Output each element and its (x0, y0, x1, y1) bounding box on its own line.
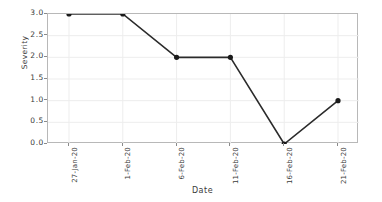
x-tick-mark (283, 143, 284, 146)
x-tick-label: 11-Feb-20 (232, 147, 240, 184)
y-tick-label: 2.5 (20, 31, 44, 39)
severity-line-series (48, 14, 359, 144)
x-axis-title: Date (47, 186, 358, 195)
x-tick-mark (122, 143, 123, 146)
chart-figure: Severity 0.00.51.01.52.02.53.0 27-Jan-20… (0, 0, 382, 202)
x-tick-label: 16-Feb-20 (286, 147, 294, 184)
x-tick-mark (68, 143, 69, 146)
x-tick-label: 21-Feb-20 (340, 147, 348, 184)
y-tick-label: 1.0 (20, 96, 44, 104)
x-tick-label: 1-Feb-20 (125, 147, 133, 179)
y-axis-tick-labels: 0.00.51.01.52.02.53.0 (16, 0, 44, 202)
y-tick-label: 0.0 (20, 139, 44, 147)
x-tick-mark (176, 143, 177, 146)
y-tick-label: 3.0 (20, 9, 44, 17)
y-tick-label: 0.5 (20, 117, 44, 125)
x-tick-label: 6-Feb-20 (179, 147, 187, 179)
x-tick-mark (337, 143, 338, 146)
x-tick-label: 27-Jan-20 (71, 147, 79, 183)
y-tick-label: 1.5 (20, 74, 44, 82)
x-axis-tick-labels: 27-Jan-201-Feb-206-Feb-2011-Feb-2016-Feb… (47, 147, 358, 187)
y-tick-label: 2.0 (20, 52, 44, 60)
x-tick-mark (229, 143, 230, 146)
plot-area (47, 13, 358, 143)
